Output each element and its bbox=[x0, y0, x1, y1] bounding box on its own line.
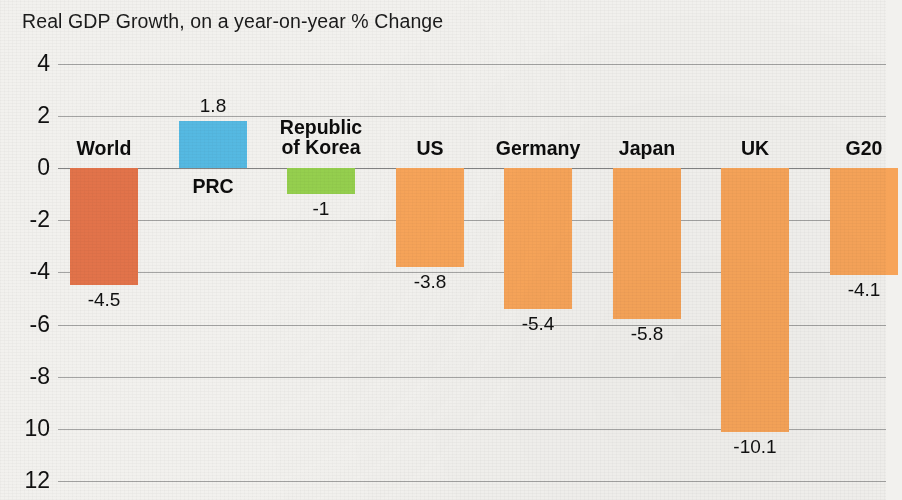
category-label: US bbox=[374, 139, 486, 159]
y-axis-tick-label: 12 bbox=[0, 469, 50, 492]
y-axis-tick-label: -4 bbox=[0, 260, 50, 283]
bar-japan bbox=[613, 168, 681, 319]
bar-republic-of-korea bbox=[287, 168, 355, 194]
category-label: PRC bbox=[157, 177, 269, 197]
bar-us bbox=[396, 168, 464, 267]
value-label: -5.4 bbox=[480, 313, 596, 335]
bar-prc bbox=[179, 121, 247, 168]
y-axis-tick-label: -8 bbox=[0, 365, 50, 388]
value-label: -10.1 bbox=[697, 436, 813, 458]
y-axis-tick-label: 0 bbox=[0, 156, 50, 179]
gridline-neg12 bbox=[58, 481, 886, 482]
y-axis-tick-label: 4 bbox=[0, 52, 50, 75]
category-label: G20 bbox=[808, 139, 902, 159]
gridline-4 bbox=[58, 64, 886, 65]
bar-world bbox=[70, 168, 138, 285]
category-label: Republic of Korea bbox=[265, 118, 377, 158]
value-label: -5.8 bbox=[589, 323, 705, 345]
value-label: -4.5 bbox=[46, 289, 162, 311]
y-axis-tick-label: 2 bbox=[0, 104, 50, 127]
bar-germany bbox=[504, 168, 572, 309]
y-axis-tick-label: -2 bbox=[0, 208, 50, 231]
value-label: -4.1 bbox=[806, 279, 902, 301]
category-label: World bbox=[48, 139, 160, 159]
y-axis-tick-label: 10 bbox=[0, 417, 50, 440]
value-label: 1.8 bbox=[155, 95, 271, 117]
category-label: Germany bbox=[482, 139, 594, 159]
bar-uk bbox=[721, 168, 789, 432]
bar-g20 bbox=[830, 168, 898, 275]
y-axis-tick-label: -6 bbox=[0, 313, 50, 336]
category-label: Japan bbox=[591, 139, 703, 159]
value-label: -3.8 bbox=[372, 271, 488, 293]
chart-title: Real GDP Growth, on a year-on-year % Cha… bbox=[22, 10, 443, 33]
category-label: UK bbox=[699, 139, 811, 159]
value-label: -1 bbox=[263, 198, 379, 220]
